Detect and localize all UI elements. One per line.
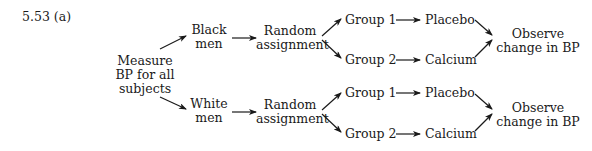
group1-top: Group 1	[345, 13, 396, 27]
start-node-line: Measure	[112, 54, 178, 68]
arrow-calcium-to-observe-top	[475, 40, 492, 57]
arrow-measure-to-black	[160, 36, 186, 49]
arrow-placebo-to-observe-bottom	[475, 94, 492, 109]
outcome-node-top: Observe change in BP	[494, 27, 582, 55]
treatment-placebo-top: Placebo	[425, 13, 475, 27]
group2-top: Group 2	[345, 53, 396, 67]
random-assignment-node-top: Random assignment	[256, 24, 324, 52]
block-line: White	[186, 97, 232, 111]
group2-bottom: Group 2	[345, 127, 396, 141]
problem-label: 5.53 (a)	[22, 10, 71, 24]
outcome-line: Observe	[494, 27, 582, 41]
start-node: Measure BP for all subjects	[112, 54, 178, 96]
treatment-calcium-top: Calcium	[425, 53, 477, 67]
group1-bottom: Group 1	[345, 86, 396, 100]
block-line: men	[186, 111, 232, 125]
assignment-line: assignment	[256, 38, 324, 52]
arrow-random-to-group1-top	[322, 19, 341, 36]
outcome-node-bottom: Observe change in BP	[494, 101, 582, 129]
assignment-line: Random	[256, 98, 324, 112]
start-node-line: subjects	[112, 82, 178, 96]
outcome-line: change in BP	[494, 41, 582, 55]
treatment-calcium-bottom: Calcium	[425, 127, 477, 141]
arrow-placebo-to-observe-top	[475, 20, 492, 35]
block-node-white: White men	[186, 97, 232, 125]
start-node-line: BP for all	[112, 68, 178, 82]
block-line: men	[186, 37, 232, 51]
assignment-line: assignment	[256, 112, 324, 126]
arrow-random-to-group1-bottom	[322, 93, 341, 110]
outcome-line: change in BP	[494, 115, 582, 129]
block-line: Black	[186, 23, 232, 37]
random-assignment-node-bottom: Random assignment	[256, 98, 324, 126]
block-node-black: Black men	[186, 23, 232, 51]
outcome-line: Observe	[494, 101, 582, 115]
arrow-calcium-to-observe-bottom	[475, 114, 492, 131]
arrow-measure-to-white	[160, 97, 186, 109]
assignment-line: Random	[256, 24, 324, 38]
treatment-placebo-bottom: Placebo	[425, 86, 475, 100]
